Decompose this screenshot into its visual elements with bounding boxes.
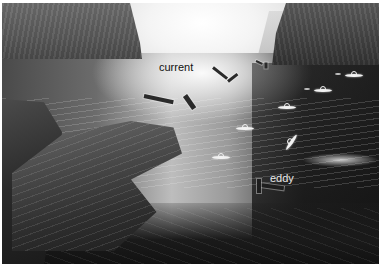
cliff-right-texture: [272, 3, 379, 65]
photo-frame: current eddy: [2, 3, 379, 264]
paddler-icon: [242, 124, 248, 130]
current-arrow-far-2: [265, 63, 268, 69]
kayak-3: [278, 104, 296, 110]
cliff-left-texture: [2, 3, 142, 59]
current-label: current: [159, 62, 193, 73]
paddler-icon: [284, 103, 290, 109]
paddler-icon: [320, 86, 326, 92]
kayak-2: [314, 87, 332, 93]
kayak-4: [236, 125, 254, 131]
foam: [302, 153, 379, 167]
paddler-icon: [351, 71, 357, 77]
kayak-wake: [335, 73, 341, 75]
paddler-icon: [218, 153, 224, 159]
eddy-arrow-head: [257, 179, 261, 193]
kayak-5: [212, 154, 230, 160]
kayak-wake: [304, 88, 310, 90]
kayak-1: [345, 72, 363, 78]
eddy-label: eddy: [270, 173, 294, 184]
